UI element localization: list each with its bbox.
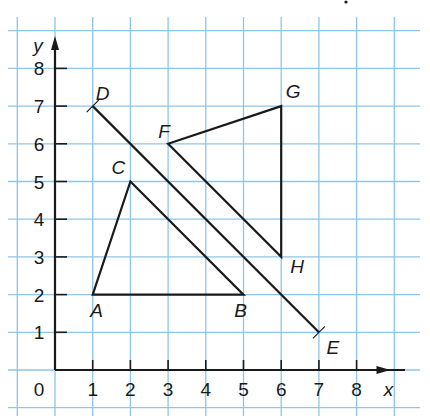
y-tick-label: 6 <box>34 134 45 155</box>
labels: 12345678123456780xyABCDEFGH <box>31 35 395 400</box>
y-tick-label: 8 <box>34 58 45 79</box>
y-tick-label: 2 <box>34 285 45 306</box>
x-axis-label: x <box>383 379 395 400</box>
y-tick-label: 1 <box>34 322 45 343</box>
x-tick-label: 3 <box>163 379 174 400</box>
y-tick-label: 7 <box>34 96 45 117</box>
point-label-g: G <box>286 81 301 102</box>
point-label-c: C <box>112 157 126 178</box>
x-tick-label: 1 <box>87 379 98 400</box>
point-label-f: F <box>158 121 171 142</box>
point-label-a: A <box>89 300 103 321</box>
y-axis-label: y <box>31 35 44 56</box>
y-tick-label: 4 <box>34 209 45 230</box>
x-tick-label: 2 <box>125 379 136 400</box>
point-label-h: H <box>290 256 304 277</box>
x-tick-label: 7 <box>314 379 325 400</box>
x-tick-label: 5 <box>238 379 249 400</box>
x-tick-label: 6 <box>276 379 287 400</box>
x-axis-arrow-icon <box>377 366 391 374</box>
point-label-d: D <box>96 83 110 104</box>
y-tick-label: 3 <box>34 247 45 268</box>
grid <box>8 17 420 416</box>
x-tick-label: 8 <box>351 379 362 400</box>
origin-label: 0 <box>34 379 45 400</box>
x-tick-label: 4 <box>201 379 212 400</box>
y-tick-label: 5 <box>34 172 45 193</box>
point-label-b: B <box>234 300 247 321</box>
coordinate-plane: 12345678123456780xyABCDEFGH <box>0 0 430 416</box>
stray-dot <box>344 0 347 3</box>
point-label-e: E <box>327 337 340 358</box>
y-axis-arrow-icon <box>51 36 59 50</box>
